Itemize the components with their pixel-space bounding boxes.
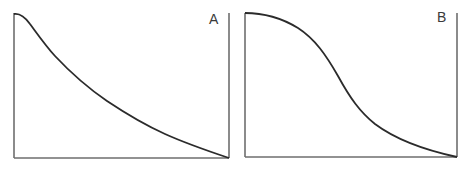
panel-a (14, 13, 229, 158)
panel-a-curve (14, 14, 229, 158)
panel-b-curve (245, 13, 457, 157)
panel-a-label: A (209, 11, 218, 27)
diagram-canvas (0, 0, 459, 173)
panel-b (245, 13, 457, 157)
panel-b-label: B (437, 9, 446, 25)
